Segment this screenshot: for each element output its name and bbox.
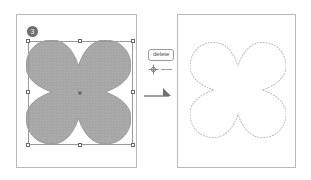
- cursor-callout: [148, 64, 176, 75]
- cursor-leader-line: [161, 69, 172, 70]
- delete-key-label[interactable]: delete: [148, 49, 174, 61]
- crosshair-cursor-icon: [148, 64, 159, 75]
- arrow-right-icon: [143, 86, 175, 100]
- figure-canvas: 3 delete: [0, 0, 311, 180]
- quatrefoil-shape-outline[interactable]: [190, 42, 286, 138]
- step-number-badge: 3: [27, 26, 38, 37]
- shape-center-point: [78, 91, 82, 95]
